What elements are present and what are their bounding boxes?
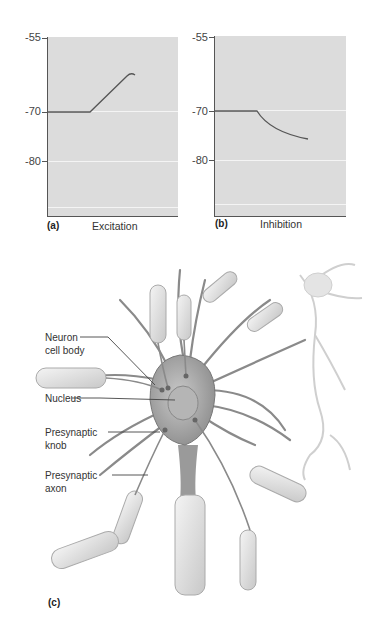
excitation-trace (0, 0, 185, 235)
chart-title-excitation: Excitation (92, 220, 138, 232)
chart-excitation: -55 -70 -80 (a) Excitation (0, 0, 185, 235)
label-neuron-cell-body: Neuron cell body (45, 331, 84, 357)
nucleus-shape (168, 386, 198, 420)
inhibition-trace (180, 0, 373, 235)
panel-label-a: (a) (47, 220, 59, 231)
panel-label-b: (b) (215, 218, 228, 229)
neuron-illustration: Neuron cell body Nucleus Presynaptic kno… (0, 240, 373, 628)
chart-inhibition: -55 -70 -80 (b) Inhibition (180, 0, 373, 235)
chart-title-inhibition: Inhibition (260, 218, 302, 230)
label-presynaptic-knob: Presynaptic knob (45, 426, 97, 452)
panel-label-c: (c) (48, 597, 60, 608)
label-presynaptic-axon: Presynaptic axon (45, 469, 97, 495)
label-nucleus: Nucleus (45, 392, 81, 405)
